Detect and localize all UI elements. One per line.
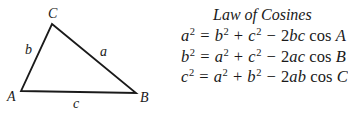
exponent: 2 [223, 67, 228, 78]
eq-lhs: b [181, 47, 189, 66]
eq-angle: B [336, 47, 346, 66]
eq-fn: cos [309, 47, 331, 66]
eq-term2: c [248, 26, 255, 45]
exponent: 2 [256, 47, 261, 58]
eq-lhs: a [181, 26, 189, 45]
exponent: 2 [256, 26, 261, 37]
equation-a: a2=b2+c2−2bc cos A [181, 26, 346, 46]
equals-sign: = [199, 67, 208, 86]
eq-term1: b [215, 26, 223, 45]
exponent: 2 [223, 26, 228, 37]
side-label-b: b [25, 42, 32, 57]
exponent: 2 [189, 67, 194, 78]
minus-sign: − [267, 47, 276, 66]
eq-term1: a [214, 67, 222, 86]
eq-fn: cos [309, 26, 331, 45]
eq-lhs: c [181, 67, 188, 86]
exponent: 2 [223, 47, 228, 58]
side-label-c: c [73, 96, 80, 111]
triangle-abc [21, 24, 136, 93]
side-label-a: a [100, 44, 107, 59]
eq-product: ac [289, 47, 305, 66]
vertex-label-c: C [48, 6, 58, 21]
eq-term1: a [215, 47, 223, 66]
eq-product: ab [289, 67, 306, 86]
equation-c: c2=a2+b2−2ab cos C [181, 67, 348, 87]
exponent: 2 [190, 47, 195, 58]
equals-sign: = [200, 26, 209, 45]
vertex-label-b: B [140, 90, 149, 105]
vertex-label-a: A [6, 89, 16, 104]
eq-angle: C [337, 67, 348, 86]
minus-sign: − [267, 26, 276, 45]
equals-sign: = [200, 47, 209, 66]
eq-angle: A [336, 26, 346, 45]
exponent: 2 [256, 67, 261, 78]
formula-title: Law of Cosines [213, 6, 312, 24]
minus-sign: − [267, 67, 276, 86]
plus-sign: + [234, 47, 243, 66]
eq-product: bc [289, 26, 305, 45]
equation-b: b2=a2+c2−2ac cos B [181, 47, 346, 67]
plus-sign: + [233, 67, 242, 86]
exponent: 2 [190, 26, 195, 37]
plus-sign: + [234, 26, 243, 45]
eq-term2: b [247, 67, 255, 86]
eq-fn: cos [310, 67, 332, 86]
triangle-diagram: C A B b a c [0, 0, 170, 121]
eq-term2: c [248, 47, 255, 66]
